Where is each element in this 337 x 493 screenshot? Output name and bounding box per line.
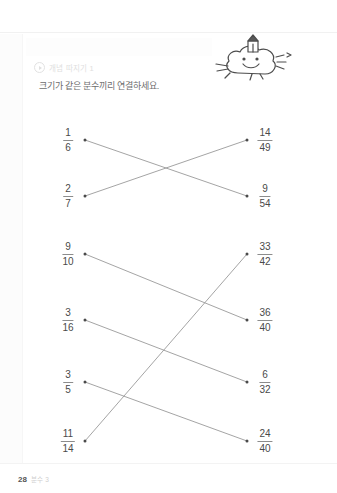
denominator: 40 [257,442,272,455]
numerator: 9 [259,183,270,197]
connection-line [85,140,247,196]
fraction-right-9-54[interactable]: 9 54 [259,183,270,209]
denominator: 16 [62,321,73,334]
exercise-group-2: 9 10 3 16 3 5 11 14 33 42 36 40 [0,234,337,466]
section-header-label: 개념 따지기 1 [49,62,94,73]
denominator: 40 [257,321,272,334]
connector-dot-right-33-42[interactable] [246,253,249,256]
denominator: 10 [62,255,73,268]
connector-dot-left-9-10[interactable] [84,253,87,256]
page-footer: 28 분수 3 [18,474,49,484]
numerator: 9 [62,241,73,255]
numerator: 11 [61,428,75,442]
connection-line [85,320,247,382]
fraction-left-2-7[interactable]: 2 7 [63,183,73,209]
denominator: 32 [259,383,270,396]
connector-dot-right-9-54[interactable] [246,195,249,198]
denominator: 54 [259,197,270,210]
numerator: 3 [63,369,73,383]
connection-line [85,382,247,441]
connector-dot-right-6-32[interactable] [246,381,249,384]
numerator: 36 [257,307,272,321]
fraction-right-14-49[interactable]: 14 49 [257,127,272,153]
denominator: 42 [257,255,272,268]
numerator: 3 [62,307,73,321]
connection-line [85,140,247,196]
connection-lines-group-2 [0,234,337,466]
footer-note: 분수 3 [31,474,49,484]
exercise-group-1: 1 6 2 7 14 49 9 54 [0,118,337,218]
connector-dot-left-3-5[interactable] [84,381,87,384]
numerator: 1 [63,127,73,141]
fraction-right-24-40[interactable]: 24 40 [257,428,272,454]
denominator: 49 [257,141,272,154]
denominator: 7 [63,197,73,210]
connector-dot-left-2-7[interactable] [84,195,87,198]
connector-dot-left-11-14[interactable] [84,440,87,443]
connector-dot-left-3-16[interactable] [84,319,87,322]
page-number: 28 [18,475,27,484]
denominator: 6 [63,141,73,154]
numerator: 24 [257,428,272,442]
worksheet-page: 개념 따지기 1 크기가 같은 분수끼리 연결하세요. [0,0,337,493]
fraction-left-1-6[interactable]: 1 6 [63,127,73,153]
fraction-left-11-14[interactable]: 11 14 [61,428,75,454]
fraction-right-6-32[interactable]: 6 32 [259,369,270,395]
section-header: 개념 따지기 1 [34,62,94,73]
numerator: 2 [63,183,73,197]
fraction-right-33-42[interactable]: 33 42 [257,241,272,267]
play-triangle-icon [34,62,45,73]
connection-lines-group-1 [0,118,337,218]
header-banner [26,38,212,56]
numerator: 14 [257,127,272,141]
fraction-right-36-40[interactable]: 36 40 [257,307,272,333]
numerator: 33 [257,241,272,255]
fraction-left-3-5[interactable]: 3 5 [63,369,73,395]
connector-dot-right-14-49[interactable] [246,139,249,142]
numerator: 6 [259,369,270,383]
fraction-left-3-16[interactable]: 3 16 [62,307,73,333]
fraction-left-9-10[interactable]: 9 10 [62,241,73,267]
smiling-cloud-mascot-icon [208,33,296,91]
denominator: 5 [63,383,73,396]
connector-dot-right-24-40[interactable] [246,440,249,443]
connection-line [85,254,247,320]
instruction-text: 크기가 같은 분수끼리 연결하세요. [39,79,159,92]
connector-dot-left-1-6[interactable] [84,139,87,142]
connector-dot-right-36-40[interactable] [246,319,249,322]
denominator: 14 [61,442,75,455]
connection-line [85,254,247,441]
